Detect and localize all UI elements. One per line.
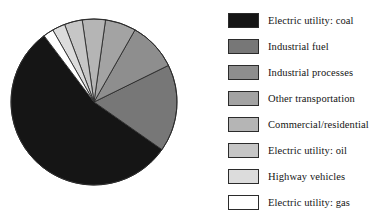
chart-legend: Electric utility: coalIndustrial fuelInd… bbox=[228, 7, 377, 217]
legend-item-label: Industrial processes bbox=[268, 67, 353, 78]
legend-item: Electric utility: gas bbox=[228, 189, 377, 215]
legend-item-label: Other transportation bbox=[268, 93, 355, 104]
legend-item: Industrial processes bbox=[228, 59, 377, 85]
legend-swatch bbox=[228, 169, 259, 184]
legend-item: Commercial/residential bbox=[228, 111, 377, 137]
legend-item-label: Electric utility: oil bbox=[268, 145, 347, 156]
legend-swatch bbox=[228, 65, 259, 80]
legend-swatch bbox=[228, 195, 259, 210]
legend-item: Other transportation bbox=[228, 85, 377, 111]
legend-item: Highway vehicles bbox=[228, 163, 377, 189]
legend-item-label: Highway vehicles bbox=[268, 171, 345, 182]
legend-item: Electric utility: coal bbox=[228, 7, 377, 33]
legend-item-label: Electric utility: gas bbox=[268, 197, 350, 208]
pie-chart-area bbox=[0, 0, 200, 222]
legend-swatch bbox=[228, 39, 259, 54]
legend-swatch bbox=[228, 117, 259, 132]
legend-item-label: Commercial/residential bbox=[268, 119, 369, 130]
legend-swatch bbox=[228, 91, 259, 106]
legend-item-label: Industrial fuel bbox=[268, 41, 329, 52]
legend-item: Electric utility: oil bbox=[228, 137, 377, 163]
legend-item: Industrial fuel bbox=[228, 33, 377, 59]
pie-chart-svg bbox=[0, 0, 200, 222]
legend-swatch bbox=[228, 143, 259, 158]
pie-chart-figure: Electric utility: coalIndustrial fuelInd… bbox=[0, 0, 377, 222]
legend-swatch bbox=[228, 13, 259, 28]
legend-item-label: Electric utility: coal bbox=[268, 15, 354, 26]
